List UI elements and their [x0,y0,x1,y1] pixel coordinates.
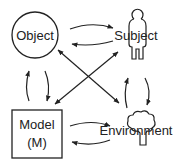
arrow-subject-to-object [72,41,113,45]
model-label-line1: Model [19,117,55,132]
model-label-line2: (M) [27,135,47,150]
subject-label: Subject [114,28,158,43]
arrow-model-subject-diagonal [55,52,118,104]
object-node: Object [12,12,58,58]
arrow-environment-to-model [72,140,110,144]
arrow-environment-to-subject [125,78,128,108]
environment-label: Environment [100,123,173,138]
arrow-subject-to-environment [145,78,149,105]
arrow-model-to-object [27,71,30,101]
arrow-object-to-subject [70,25,113,29]
object-subject-model-environment-diagram: Object Subject Model (M) Environment [0,0,182,166]
environment-node: Environment [100,111,173,145]
subject-node: Subject [114,9,158,59]
arrow-object-to-model [45,71,49,101]
model-node: Model (M) [12,110,62,158]
object-label: Object [16,28,54,43]
